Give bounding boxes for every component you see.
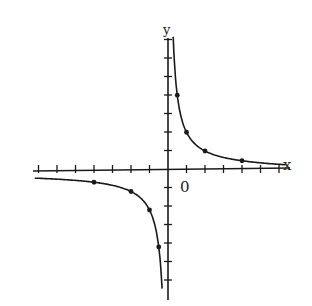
hyperbola-plot bbox=[0, 0, 312, 306]
data-point bbox=[175, 93, 180, 98]
data-point bbox=[92, 180, 97, 185]
x-axis-label: x bbox=[283, 156, 291, 174]
origin-label: 0 bbox=[180, 178, 190, 196]
data-point bbox=[156, 245, 161, 250]
data-point bbox=[240, 158, 245, 163]
x-axis bbox=[33, 168, 290, 171]
data-point bbox=[203, 149, 208, 154]
data-point bbox=[184, 130, 189, 135]
y-axis-label: y bbox=[163, 22, 170, 37]
data-point bbox=[129, 189, 134, 194]
curve-negative-branch bbox=[35, 178, 162, 289]
curve-positive-branch bbox=[173, 37, 286, 165]
data-point bbox=[147, 208, 152, 213]
